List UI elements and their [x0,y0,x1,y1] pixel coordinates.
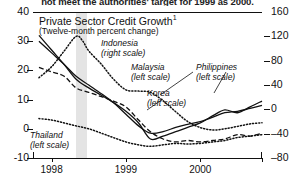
series-label-malaysia: Malaysia (left scale) [131,63,170,82]
series-label-korea-scale: (left scale) [147,99,186,109]
chart-figure: not meet the authorities' target for 199… [0,0,295,182]
series-label-malaysia-scale: (left scale) [131,73,170,83]
series-label-thailand: Thailand (left scale) [30,131,69,150]
series-label-thailand-scale: (left scale) [30,141,69,151]
series-label-philippines-scale: (left scale) [196,73,237,83]
series-label-philippines: Philippines (left scale) [196,63,237,82]
series-line-indonesia [39,36,262,130]
series-label-indonesia: Indonesia (right scale) [101,39,145,58]
series-label-indonesia-scale: (right scale) [101,49,145,59]
series-label-korea: Korea (left scale) [147,89,186,108]
